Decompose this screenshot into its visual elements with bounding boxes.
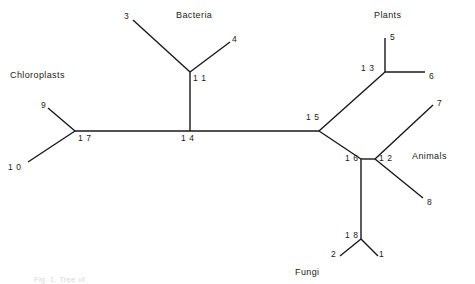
- group-label-chloroplasts: Chloroplasts: [10, 71, 65, 80]
- tree-branch-10-17: [28, 131, 75, 162]
- tree-branch-9-17: [48, 108, 75, 131]
- leaf-label-1: 1: [379, 250, 384, 259]
- leaf-label-5: 5: [390, 33, 395, 42]
- leaf-label-6: 6: [429, 72, 434, 81]
- leaf-label-10: 1 0: [8, 163, 22, 172]
- leaf-label-2: 2: [331, 250, 336, 259]
- leaf-label-7: 7: [437, 99, 442, 108]
- node-label-12: 1 2: [379, 154, 393, 163]
- node-label-16: 1 6: [345, 154, 359, 163]
- leaf-label-9: 9: [41, 101, 46, 110]
- phylogenetic-tree-svg: [0, 0, 475, 284]
- tree-branch-3-11: [133, 20, 190, 72]
- node-label-11: 1 1: [193, 74, 207, 83]
- group-label-animals: Animals: [412, 152, 447, 161]
- tree-branch-12-8: [375, 159, 423, 198]
- node-label-17: 1 7: [78, 134, 92, 143]
- tree-branch-18-2: [340, 239, 361, 256]
- tree-branch-18-1: [361, 239, 378, 256]
- tree-branch-4-11: [190, 42, 230, 72]
- group-label-plants: Plants: [374, 11, 401, 20]
- node-label-13: 1 3: [361, 64, 375, 73]
- figure-panel: BacteriaPlantsChloroplastsAnimalsFungi 1…: [0, 0, 475, 284]
- node-label-14: 1 4: [181, 134, 195, 143]
- figure-caption: Fig. 1. Tree of: [34, 276, 434, 284]
- node-label-18: 1 8: [345, 231, 359, 240]
- leaf-label-8: 8: [427, 198, 432, 207]
- group-label-bacteria: Bacteria: [176, 11, 212, 20]
- node-label-15: 1 5: [306, 113, 320, 122]
- leaf-label-3: 3: [124, 12, 129, 21]
- tree-branch-15-13: [319, 72, 385, 131]
- leaf-label-4: 4: [232, 35, 237, 44]
